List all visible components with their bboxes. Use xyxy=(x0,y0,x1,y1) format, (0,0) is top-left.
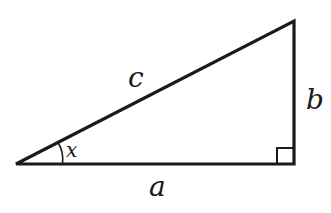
angle-arc xyxy=(58,143,63,165)
angle-label: x xyxy=(66,138,77,162)
right-angle-marker xyxy=(277,148,294,164)
triangle xyxy=(16,21,294,164)
horizontal-leg-label: a xyxy=(149,170,166,203)
vertical-leg-label: b xyxy=(306,83,324,116)
hypotenuse-label: c xyxy=(128,61,144,94)
right-triangle-diagram: c b a x xyxy=(0,0,331,213)
